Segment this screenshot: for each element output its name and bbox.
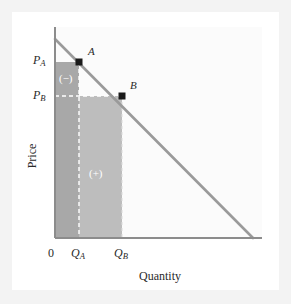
y-tick-pb-sub: B (40, 93, 45, 103)
point-a-marker (76, 59, 83, 66)
x-tick-label-qb: QB (114, 247, 128, 261)
x-tick-qa-base: Q (71, 246, 80, 260)
y-tick-label-pb: PB (33, 89, 46, 103)
point-b-marker (119, 93, 126, 100)
x-tick-label-qa: QA (71, 247, 85, 261)
x-tick-qa-sub: A (80, 251, 85, 261)
point-b-label: B (130, 80, 137, 91)
region-base (55, 96, 79, 238)
figure-root: Price Quantity PA PB 0 QA QB A B (−) (+) (0, 0, 291, 304)
chart-svg (0, 0, 291, 304)
x-axis-title: Quantity (139, 270, 181, 282)
y-tick-pa-sub: A (40, 58, 45, 68)
region-positive-tag: (+) (89, 167, 103, 179)
y-tick-label-pa: PA (33, 54, 46, 68)
x-tick-label-origin: 0 (48, 247, 54, 259)
region-negative-tag: (−) (59, 72, 73, 84)
demand-curve-figure (0, 0, 291, 304)
x-tick-qb-base: Q (114, 246, 123, 260)
y-axis-title: Price (26, 116, 38, 196)
point-a-label: A (88, 46, 95, 57)
x-tick-qb-sub: B (123, 251, 128, 261)
